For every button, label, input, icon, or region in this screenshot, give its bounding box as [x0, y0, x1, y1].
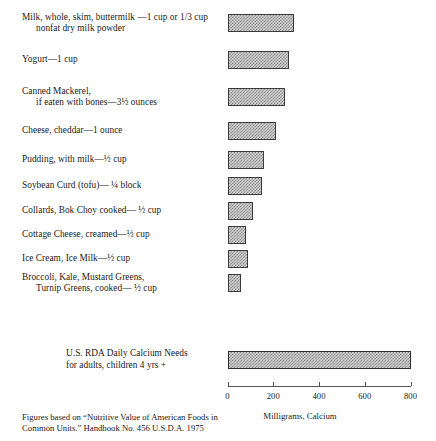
row-label: Cottage Cheese, creamed—½ cup — [22, 229, 222, 240]
x-axis-tick-label: 200 — [267, 391, 280, 401]
row-label-line-2: Turnip Greens, cooked— ½ cup — [22, 283, 222, 294]
x-axis-tick-label: 600 — [358, 391, 371, 401]
row-label-line-1: Cottage Cheese, creamed—½ cup — [22, 229, 150, 239]
row-label-line-2: if eaten with bones—3½ ounces — [22, 97, 222, 108]
x-axis-tick-label: 400 — [313, 391, 326, 401]
x-axis-tick — [273, 382, 274, 386]
row-label-line-2: nonfat dry milk powder — [22, 23, 222, 34]
x-axis-tick — [365, 382, 366, 386]
x-axis-tick — [228, 382, 229, 386]
value-bar — [228, 122, 276, 140]
row-label: U.S. RDA Daily Calcium Needsfor adults, … — [22, 348, 222, 371]
row-label: Cheese, cheddar—1 ounce — [22, 125, 222, 136]
value-bar — [228, 202, 253, 220]
row-label-line-1: Canned Mackerel, — [22, 86, 91, 96]
value-bar — [228, 51, 290, 69]
x-axis-tick — [319, 382, 320, 386]
rda-label-line-2: for adults, children 4 yrs + — [66, 360, 222, 371]
source-note: Figures based on “Nutritive Value of Ame… — [22, 412, 252, 434]
row-label: Yogurt—1 cup — [22, 54, 222, 65]
value-bar — [228, 151, 265, 169]
source-note-line-2: Common Units.” Handbook No. 456 U.S.D.A.… — [22, 423, 252, 434]
row-label-line-1: Ice Cream, Ice Milk—½ cup — [22, 253, 130, 263]
row-label-line-1: Soybean Curd (tofu)— ¼ block — [22, 180, 141, 190]
calcium-sources-bar-chart: Milk, whole, skim, buttermilk —1 cup or … — [0, 0, 436, 441]
row-label: Canned Mackerel,if eaten with bones—3½ o… — [22, 86, 222, 109]
value-bar — [228, 88, 285, 106]
row-label-line-1: Milk, whole, skim, buttermilk —1 cup or … — [22, 12, 208, 22]
x-axis-tick-label: 800 — [404, 391, 417, 401]
value-bar — [228, 226, 246, 244]
x-axis-tick — [411, 382, 412, 386]
row-label-line-1: Cheese, cheddar—1 ounce — [22, 125, 123, 135]
value-bar — [228, 14, 294, 32]
value-bar — [228, 274, 242, 292]
rda-reference-bar — [228, 351, 411, 369]
x-axis-line — [228, 386, 411, 387]
row-label-line-1: Pudding, with milk—½ cup — [22, 154, 127, 164]
value-bar — [228, 177, 262, 195]
source-note-line-1: Figures based on “Nutritive Value of Ame… — [22, 412, 252, 423]
row-label: Soybean Curd (tofu)— ¼ block — [22, 180, 222, 191]
row-label: Milk, whole, skim, buttermilk —1 cup or … — [22, 12, 222, 35]
value-bar — [228, 250, 249, 268]
row-label: Pudding, with milk—½ cup — [22, 154, 222, 165]
row-label-line-1: Yogurt—1 cup — [22, 54, 78, 64]
row-label: Broccoli, Kale, Mustard Greens,Turnip Gr… — [22, 272, 222, 295]
x-axis-title: Milligrams, Calcium — [263, 411, 336, 421]
row-label: Ice Cream, Ice Milk—½ cup — [22, 253, 222, 264]
row-label-line-1: Collards, Bok Choy cooked— ½ cup — [22, 205, 161, 215]
row-label-line-1: Broccoli, Kale, Mustard Greens, — [22, 272, 144, 282]
x-axis-tick-label: 0 — [225, 391, 229, 401]
row-label: Collards, Bok Choy cooked— ½ cup — [22, 205, 222, 216]
row-label-line-1: U.S. RDA Daily Calcium Needs — [66, 348, 188, 358]
